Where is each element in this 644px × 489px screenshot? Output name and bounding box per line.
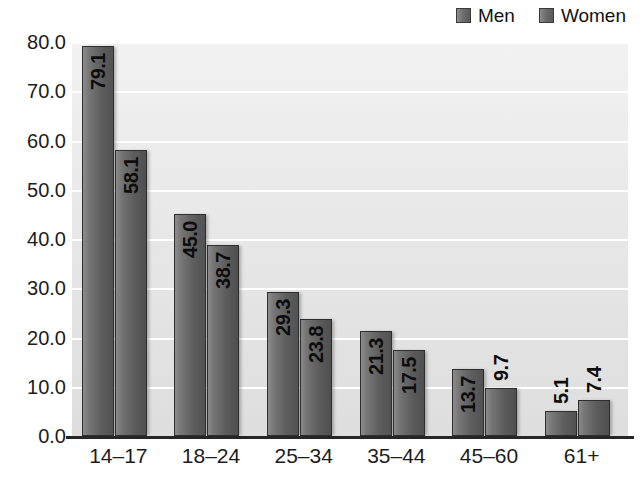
bar-group: 13.79.7: [443, 42, 536, 436]
bar-women[interactable]: 17.5: [393, 350, 425, 436]
bar-group: 21.317.5: [350, 42, 443, 436]
bar-group: 45.038.7: [165, 42, 258, 436]
y-axis-tick-label: 40.0: [0, 228, 66, 251]
y-axis-tick-label: 80.0: [0, 31, 66, 54]
x-axis-line: [66, 436, 634, 439]
x-axis-labels: 14–1718–2425–3435–4445–6061+: [72, 444, 628, 478]
bar-value-label: 45.0: [179, 221, 202, 258]
y-axis-tick-label: 30.0: [0, 277, 66, 300]
chart-legend: Men Women: [456, 6, 626, 25]
x-axis-category-label: 35–44: [350, 444, 443, 468]
bar-men[interactable]: 5.1: [545, 411, 577, 436]
legend-label-men: Men: [478, 6, 515, 25]
y-axis-tick-label: 60.0: [0, 130, 66, 153]
x-axis-category-label: 61+: [535, 444, 628, 468]
bar-value-label: 13.7: [457, 376, 480, 413]
x-axis-category-label: 25–34: [257, 444, 350, 468]
x-axis-category-label: 14–17: [72, 444, 165, 468]
bar-value-label: 7.4: [583, 366, 606, 392]
bar-group: 29.323.8: [257, 42, 350, 436]
bar-men[interactable]: 79.1: [82, 46, 114, 436]
bar-women[interactable]: 23.8: [300, 319, 332, 436]
bar-women[interactable]: 58.1: [115, 150, 147, 436]
y-axis-tick-label: 0.0: [0, 425, 66, 448]
x-axis-category-label: 45–60: [443, 444, 536, 468]
bar-value-label: 79.1: [86, 53, 109, 90]
x-axis-category-label: 18–24: [165, 444, 258, 468]
bar-women[interactable]: 38.7: [207, 245, 239, 436]
legend-entry-men: Men: [456, 6, 515, 25]
y-axis-tick-label: 20.0: [0, 327, 66, 350]
bar-value-label: 5.1: [550, 378, 573, 404]
bar-value-label: 29.3: [272, 299, 295, 336]
bar-group: 79.158.1: [72, 42, 165, 436]
bar-value-label: 21.3: [364, 338, 387, 375]
bar-value-label: 17.5: [397, 357, 420, 394]
bar-chart: Men Women 80.070.060.050.040.030.020.010…: [0, 0, 644, 489]
bar-group: 5.17.4: [535, 42, 628, 436]
y-axis-tick-label: 50.0: [0, 179, 66, 202]
bar-value-label: 38.7: [212, 252, 235, 289]
bars-layer: 79.158.145.038.729.323.821.317.513.79.75…: [72, 42, 628, 436]
bar-value-label: 58.1: [119, 157, 142, 194]
legend-label-women: Women: [561, 6, 626, 25]
women-legend-swatch-icon: [539, 8, 554, 23]
y-axis-ticks: 80.070.060.050.040.030.020.010.00.0: [0, 42, 66, 436]
bar-value-label: 23.8: [305, 326, 328, 363]
y-axis-tick-label: 10.0: [0, 376, 66, 399]
bar-men[interactable]: 29.3: [267, 292, 299, 436]
men-legend-swatch-icon: [456, 8, 471, 23]
bar-women[interactable]: 7.4: [578, 400, 610, 436]
bar-men[interactable]: 45.0: [174, 214, 206, 436]
bar-women[interactable]: 9.7: [485, 388, 517, 436]
bar-value-label: 9.7: [490, 355, 513, 381]
y-axis-tick-label: 70.0: [0, 80, 66, 103]
bar-men[interactable]: 21.3: [360, 331, 392, 436]
bar-men[interactable]: 13.7: [452, 369, 484, 436]
legend-entry-women: Women: [539, 6, 626, 25]
